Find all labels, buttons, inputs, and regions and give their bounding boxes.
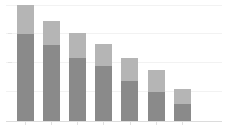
- bar-segment-lower[interactable]: [121, 81, 138, 121]
- bar-segment-lower[interactable]: [174, 104, 191, 121]
- bar-group[interactable]: [17, 5, 34, 121]
- bar-segment-lower[interactable]: [17, 34, 34, 121]
- bar-segment-upper[interactable]: [43, 21, 60, 45]
- bar-segment-lower[interactable]: [69, 58, 86, 121]
- bar-segment-upper[interactable]: [174, 89, 191, 104]
- bar-segment-upper[interactable]: [69, 33, 86, 58]
- bar-segment-lower[interactable]: [148, 92, 165, 121]
- bar-segment-upper[interactable]: [95, 44, 112, 66]
- bar-group[interactable]: [43, 21, 60, 121]
- bar-group[interactable]: [174, 89, 191, 121]
- bar-group[interactable]: [148, 70, 165, 121]
- bar-group[interactable]: [95, 44, 112, 121]
- bar-group[interactable]: [121, 58, 138, 121]
- bar-group[interactable]: [69, 33, 86, 121]
- bar-segment-upper[interactable]: [17, 5, 34, 34]
- plot-area: [0, 0, 226, 134]
- bar-segment-upper[interactable]: [121, 58, 138, 81]
- bar-segment-lower[interactable]: [95, 66, 112, 121]
- bar-chart: [0, 0, 226, 134]
- bar-segment-upper[interactable]: [148, 70, 165, 92]
- bar-segment-lower[interactable]: [43, 45, 60, 121]
